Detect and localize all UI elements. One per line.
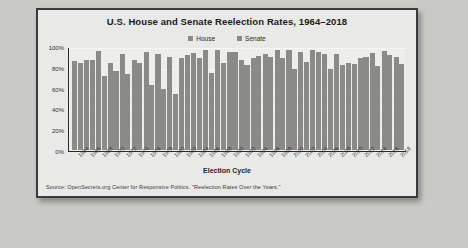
legend-swatch-senate (237, 36, 242, 41)
legend-label-house: House (196, 35, 215, 42)
chart-figure-frame: U.S. House and Senate Reelection Rates, … (36, 8, 418, 198)
legend-entry-senate[interactable]: Senate (237, 35, 266, 42)
bar-house[interactable] (120, 54, 125, 149)
bar-house[interactable] (239, 60, 244, 149)
bar-senate[interactable] (149, 85, 154, 150)
bar-senate[interactable] (328, 69, 333, 149)
bar-group[interactable] (95, 48, 107, 150)
bar-group[interactable] (191, 48, 203, 150)
bar-house[interactable] (322, 54, 327, 149)
bar-house[interactable] (275, 50, 280, 149)
source-note: Source: OpenSecrets.org Center for Respo… (46, 184, 281, 190)
bar-house[interactable] (167, 57, 172, 149)
bar-senate[interactable] (352, 64, 357, 149)
bar-house[interactable] (203, 50, 208, 149)
bar-house[interactable] (310, 50, 315, 149)
bar-group[interactable] (286, 48, 298, 150)
bar-senate[interactable] (292, 69, 297, 149)
bar-group[interactable] (167, 48, 179, 150)
bar-senate[interactable] (102, 76, 107, 149)
bar-group[interactable] (226, 48, 238, 150)
bar-senate[interactable] (137, 63, 142, 149)
bar-group[interactable] (107, 48, 119, 150)
bar-group[interactable] (131, 48, 143, 150)
bar-group[interactable] (310, 48, 322, 150)
y-axis-tick-label: 60% (52, 87, 64, 93)
bar-senate[interactable] (256, 56, 261, 149)
bar-house[interactable] (84, 60, 89, 149)
bar-senate[interactable] (197, 58, 202, 149)
bar-senate[interactable] (113, 71, 118, 149)
y-axis-tick-label: 0% (55, 149, 64, 155)
bar-group[interactable] (83, 48, 95, 150)
bar-group[interactable] (298, 48, 310, 150)
bar-senate[interactable] (209, 73, 214, 149)
bar-house[interactable] (215, 50, 220, 149)
bar-group[interactable] (274, 48, 286, 150)
bar-house[interactable] (358, 58, 363, 149)
bar-senate[interactable] (125, 74, 130, 149)
bar-group[interactable] (369, 48, 381, 150)
bar-house[interactable] (394, 57, 399, 149)
bar-group[interactable] (333, 48, 345, 150)
bar-senate[interactable] (340, 65, 345, 149)
bar-senate[interactable] (244, 65, 249, 149)
legend-swatch-house (188, 36, 193, 41)
bar-group[interactable] (357, 48, 369, 150)
bar-group[interactable] (155, 48, 167, 150)
bar-house[interactable] (346, 63, 351, 149)
bar-group[interactable] (345, 48, 357, 150)
bar-house[interactable] (298, 52, 303, 149)
bar-senate[interactable] (173, 94, 178, 150)
bar-group[interactable] (238, 48, 250, 150)
bar-senate[interactable] (316, 52, 321, 149)
legend-entry-house[interactable]: House (188, 35, 215, 42)
bar-senate[interactable] (78, 63, 83, 149)
bar-house[interactable] (382, 51, 387, 149)
bar-senate[interactable] (304, 62, 309, 149)
bar-house[interactable] (286, 50, 291, 149)
bar-group[interactable] (393, 48, 405, 150)
bar-group[interactable] (179, 48, 191, 150)
bar-group[interactable] (143, 48, 155, 150)
bar-house[interactable] (263, 54, 268, 149)
chart-title: U.S. House and Senate Reelection Rates, … (38, 16, 416, 27)
bar-group[interactable] (214, 48, 226, 150)
bar-house[interactable] (96, 51, 101, 149)
chart-legend: House Senate (38, 35, 416, 42)
bar-senate[interactable] (90, 60, 95, 149)
bar-group[interactable] (250, 48, 262, 150)
bar-group[interactable] (262, 48, 274, 150)
bar-senate[interactable] (185, 55, 190, 149)
bar-senate[interactable] (280, 58, 285, 149)
bar-house[interactable] (155, 54, 160, 149)
bar-house[interactable] (191, 53, 196, 149)
bar-group[interactable] (322, 48, 334, 150)
bar-senate[interactable] (363, 57, 368, 149)
bar-senate[interactable] (375, 66, 380, 149)
x-axis-title: Election Cycle (38, 167, 416, 174)
legend-label-senate: Senate (245, 35, 266, 42)
bar-house[interactable] (72, 61, 77, 149)
bar-senate[interactable] (161, 89, 166, 150)
bar-house[interactable] (334, 54, 339, 149)
bar-house[interactable] (179, 58, 184, 149)
bar-senate[interactable] (232, 52, 237, 149)
y-axis: 100%80%60%40%20%0% (39, 48, 66, 152)
bar-group[interactable] (72, 48, 84, 150)
bar-house[interactable] (108, 63, 113, 149)
bar-house[interactable] (227, 52, 232, 149)
bar-house[interactable] (251, 58, 256, 149)
bar-house[interactable] (370, 53, 375, 149)
bar-senate[interactable] (387, 55, 392, 149)
bar-senate[interactable] (268, 57, 273, 149)
bar-house[interactable] (144, 52, 149, 149)
y-axis-tick-label: 100% (49, 45, 64, 51)
y-axis-tick-label: 20% (52, 128, 64, 134)
bar-group[interactable] (119, 48, 131, 150)
bar-group[interactable] (381, 48, 393, 150)
bar-house[interactable] (132, 60, 137, 149)
bar-group[interactable] (202, 48, 214, 150)
bar-senate[interactable] (221, 63, 226, 149)
bar-senate[interactable] (399, 64, 404, 149)
